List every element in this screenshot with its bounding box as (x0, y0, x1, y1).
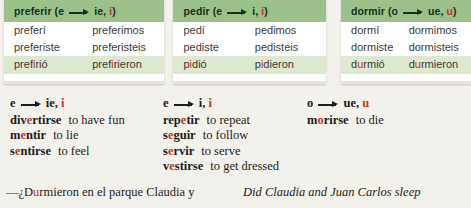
conjugation-cell: prefirieron (92, 58, 164, 71)
verb-list-item: mentirto lie (10, 128, 125, 144)
table-row: durmiódurmieron (341, 56, 471, 74)
verb-translation: to lie (53, 128, 78, 142)
conjugation-cell: durmió (351, 58, 409, 71)
table-header: pedir (e i, i) (173, 0, 326, 22)
conjugation-cell: preferisteis (92, 41, 164, 54)
verb-list: e ie, idivertirseto have funmentirto lie… (10, 96, 125, 159)
verb-translation: to have fun (68, 113, 124, 127)
conjugation-cell: preferiste (14, 41, 92, 54)
table-row: pidiópidieron (173, 56, 326, 74)
table-footer-spacer (4, 74, 164, 81)
conjugation-cell: dormimos (409, 24, 467, 37)
verb-list-item: morirseto die (307, 113, 384, 129)
table-body: preferir (e ie, i)preferípreferimosprefe… (4, 0, 164, 84)
verb-translation: to follow (203, 128, 248, 142)
table-row: prefirióprefirieron (4, 56, 164, 74)
conjugation-cell: pedí (183, 24, 254, 37)
verb-infinitive: divertirse (10, 113, 61, 127)
conjugation-cell: pidieron (255, 58, 323, 71)
verb-list-item: sentirseto feel (10, 144, 125, 160)
table-footer-spacer (341, 74, 471, 81)
verb-list: o ue, umorirseto die (307, 96, 384, 128)
verb-lists: e ie, idivertirseto have funmentirto lie… (0, 96, 471, 180)
verb-list-item: vestirseto get dressed (163, 159, 279, 175)
conjugation-cell: preferimos (92, 24, 164, 37)
example-english: Did Claudia and Juan Carlos sleep (243, 184, 420, 200)
verb-infinitive: vestirse (163, 159, 203, 173)
arrow-icon (174, 101, 194, 107)
verb-translation: to die (356, 113, 384, 127)
verb-list-heading: e i, i (163, 96, 279, 112)
verb-list-item: seguirto follow (163, 128, 279, 144)
verb-infinitive: morirse (307, 113, 349, 127)
verb-infinitive: mentir (10, 128, 46, 142)
verb-list: e i, irepetirto repeatseguirto followser… (163, 96, 279, 175)
verb-infinitive: repetir (163, 113, 200, 127)
conjugation-table: preferir (e ie, i)preferípreferimosprefe… (4, 0, 164, 92)
arrow-icon (403, 9, 423, 15)
table-row: preferistepreferisteis (4, 39, 164, 56)
verb-infinitive: servir (163, 144, 194, 158)
table-row: pedistepedisteis (173, 39, 326, 56)
conjugation-cell: dormiste (351, 41, 409, 54)
table-header: preferir (e ie, i) (4, 0, 164, 22)
conjugation-table: pedir (e i, i)pedípedimospedistepedistei… (173, 0, 326, 92)
conjugation-cell: pedisteis (255, 41, 323, 54)
table-row: dormídormimos (341, 22, 471, 39)
table-row: pedípedimos (173, 22, 326, 39)
arrow-icon (318, 101, 338, 107)
table-body: pedir (e i, i)pedípedimospedistepedistei… (173, 0, 326, 84)
verb-list-item: servirto serve (163, 144, 279, 160)
verb-list-heading: o ue, u (307, 96, 384, 112)
conjugation-cell: pedimos (255, 24, 323, 37)
table-body: dormir (o ue, u)dormídormimosdormistedor… (341, 0, 471, 84)
verb-translation: to get dressed (210, 159, 279, 173)
table-row: preferípreferimos (4, 22, 164, 39)
example-spanish: —¿Durmieron en el parque Claudia y (6, 184, 194, 200)
verb-infinitive: seguir (163, 128, 196, 142)
table-footer-spacer (173, 74, 326, 81)
verb-translation: to feel (58, 144, 90, 158)
verb-list-heading: e ie, i (10, 96, 125, 112)
conjugation-cell: prefirió (14, 58, 92, 71)
arrow-icon (227, 9, 247, 15)
conjugation-cell: pediste (183, 41, 254, 54)
arrow-icon (21, 101, 41, 107)
conjugation-cell: durmieron (409, 58, 467, 71)
table-header: dormir (o ue, u) (341, 0, 471, 22)
conjugation-cell: dormisteis (409, 41, 467, 54)
conjugation-cell: pidió (183, 58, 254, 71)
conjugation-tables: preferir (e ie, i)preferípreferimosprefe… (0, 0, 471, 92)
verb-list-item: divertirseto have fun (10, 113, 125, 129)
verb-translation: to repeat (207, 113, 250, 127)
verb-infinitive: sentirse (10, 144, 51, 158)
arrow-icon (69, 9, 89, 15)
verb-translation: to serve (201, 144, 240, 158)
table-row: dormistedormisteis (341, 39, 471, 56)
conjugation-cell: dormí (351, 24, 409, 37)
conjugation-cell: preferí (14, 24, 92, 37)
conjugation-table: dormir (o ue, u)dormídormimosdormistedor… (341, 0, 471, 92)
verb-list-item: repetirto repeat (163, 113, 279, 129)
